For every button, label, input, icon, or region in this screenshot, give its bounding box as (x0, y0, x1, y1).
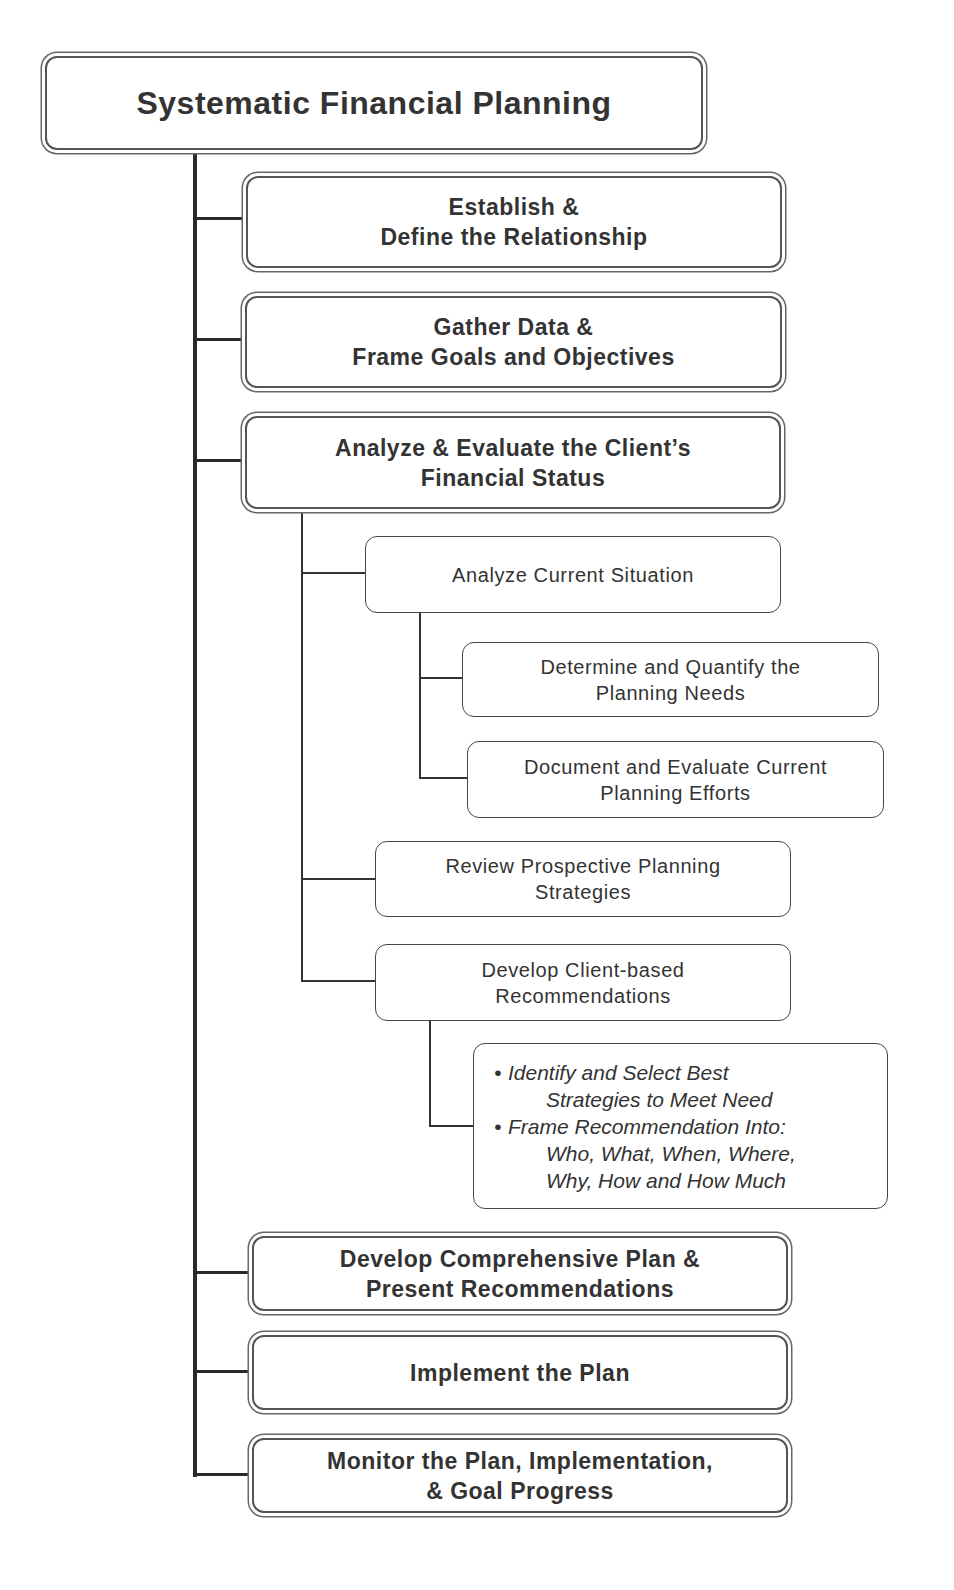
step-establish-relationship: Establish & Define the Relationship (246, 176, 782, 268)
substep-label-line2: Planning Needs (596, 680, 746, 706)
bullet-icon: • (488, 1059, 508, 1086)
connector-step-3 (193, 459, 245, 462)
substep-label-line2: Strategies (535, 879, 631, 905)
step-label-line2: Frame Goals and Objectives (352, 342, 674, 372)
substep-analyze-current-situation: Analyze Current Situation (365, 536, 781, 613)
current-situation-branch-line (419, 612, 421, 778)
bullet-text-line1: Frame Recommendation Into: (508, 1113, 786, 1140)
step-label-line2: & Goal Progress (426, 1476, 614, 1506)
connector-document-efforts (419, 777, 467, 779)
substep-document-planning-efforts: Document and Evaluate Current Planning E… (467, 741, 884, 818)
step-gather-data: Gather Data & Frame Goals and Objectives (245, 296, 782, 388)
bullet-text-line3: Why, How and How Much (488, 1167, 786, 1194)
step-label-line2: Present Recommendations (366, 1274, 674, 1304)
bullet-text-line2: Strategies to Meet Need (488, 1086, 772, 1113)
step-label-line1: Monitor the Plan, Implementation, (327, 1446, 713, 1476)
step-label-line1: Develop Comprehensive Plan & (340, 1244, 700, 1274)
connector-analyze-current (301, 572, 365, 574)
connector-determine-needs (419, 677, 462, 679)
title-box: Systematic Financial Planning (45, 56, 703, 150)
step-implement-plan: Implement the Plan (252, 1335, 788, 1410)
connector-step-6 (193, 1473, 251, 1476)
step-label-line2: Financial Status (421, 463, 605, 493)
step-monitor-plan: Monitor the Plan, Implementation, & Goal… (252, 1438, 788, 1513)
substep-label-line1: Document and Evaluate Current (524, 754, 827, 780)
substep-label-line2: Planning Efforts (600, 780, 750, 806)
substep-label: Analyze Current Situation (452, 562, 694, 588)
bullet-text-line2: Who, What, When, Where, (488, 1140, 796, 1167)
connector-step-2 (193, 338, 245, 341)
recommendation-branch-line (429, 1020, 431, 1126)
substep-label-line1: Determine and Quantify the (540, 654, 800, 680)
step-label-line1: Analyze & Evaluate the Client’s (335, 433, 691, 463)
substep-label-line1: Review Prospective Planning (445, 853, 720, 879)
substep-label-line2: Recommendations (495, 983, 671, 1009)
substep-label-line1: Develop Client-based (481, 957, 684, 983)
substep-determine-planning-needs: Determine and Quantify the Planning Need… (462, 642, 879, 717)
recommendation-details-box: • Identify and Select Best Strategies to… (473, 1043, 888, 1209)
main-trunk-line (193, 150, 197, 1477)
step-label-line1: Establish & (449, 192, 580, 222)
bullet-icon: • (488, 1113, 508, 1140)
connector-review-strategies (301, 878, 375, 880)
connector-develop-recommendations (301, 980, 375, 982)
diagram-title: Systematic Financial Planning (136, 85, 611, 122)
bullet-text-line1: Identify and Select Best (508, 1059, 729, 1086)
substep-review-strategies: Review Prospective Planning Strategies (375, 841, 791, 917)
connector-step-4 (193, 1271, 251, 1274)
step-analyze-evaluate: Analyze & Evaluate the Client’s Financia… (245, 416, 781, 509)
bullet-item: • Identify and Select Best (488, 1059, 729, 1086)
connector-step-5 (193, 1370, 251, 1373)
connector-recommendation-details (429, 1125, 473, 1127)
analyze-branch-line (301, 510, 303, 982)
step-label: Implement the Plan (410, 1358, 630, 1388)
connector-step-1 (193, 217, 246, 220)
substep-develop-recommendations: Develop Client-based Recommendations (375, 944, 791, 1021)
bullet-item: • Frame Recommendation Into: (488, 1113, 786, 1140)
step-develop-comprehensive-plan: Develop Comprehensive Plan & Present Rec… (252, 1236, 788, 1311)
step-label-line1: Gather Data & (434, 312, 594, 342)
step-label-line2: Define the Relationship (380, 222, 647, 252)
